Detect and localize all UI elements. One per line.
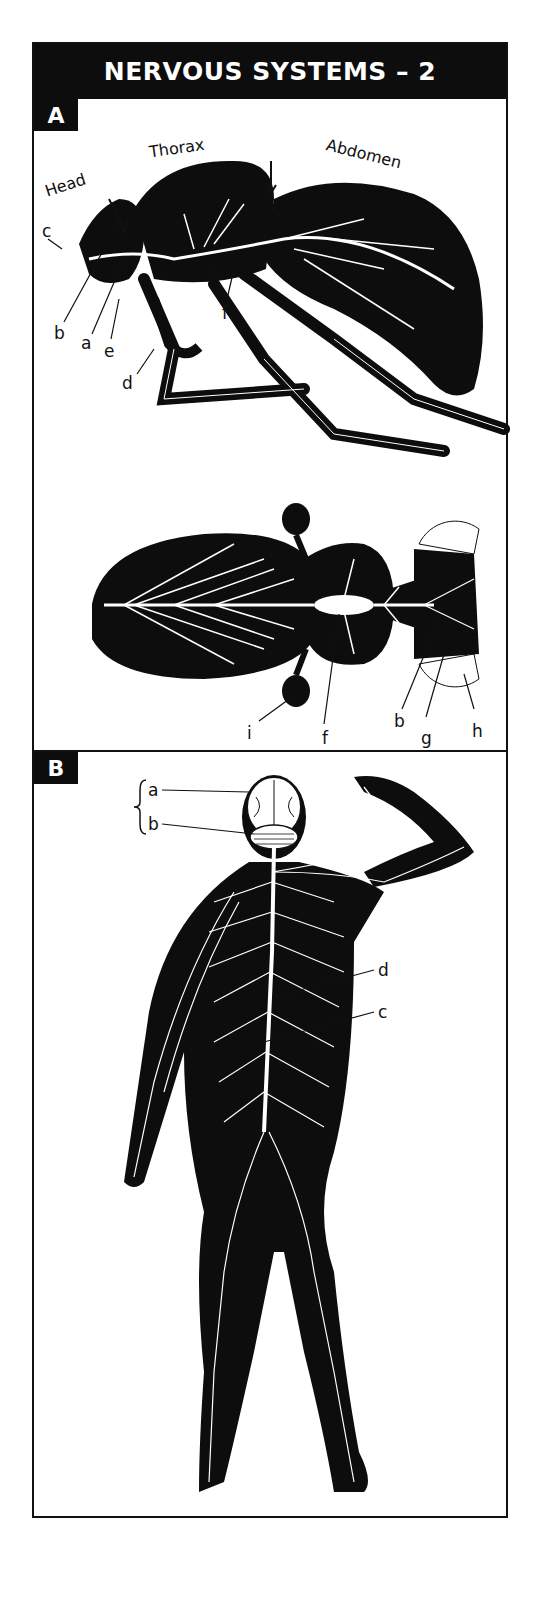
figure-title: NERVOUS SYSTEMS – 2 [104, 57, 436, 86]
label-d: d [122, 373, 133, 393]
insect-diagrams: Head Thorax Abdomen c b a e d f [34, 99, 510, 750]
label-f: f [222, 303, 229, 323]
human-figure: a b d c [124, 775, 474, 1492]
label-b: b [54, 323, 65, 343]
region-head: Head [43, 170, 89, 201]
label-d-nerves: d [378, 960, 389, 980]
label-a-brain: a [148, 780, 158, 800]
insect-side-view: Head Thorax Abdomen c b a e d f [42, 135, 504, 451]
label-g: g [421, 728, 432, 748]
panel-a-insect: A [34, 99, 506, 750]
label-a: a [81, 333, 91, 353]
label-i: i [247, 723, 252, 743]
brain-brace [134, 780, 146, 834]
title-bar: NERVOUS SYSTEMS – 2 [34, 44, 506, 99]
human-diagram: a b d c [34, 752, 510, 1518]
label-b-top: b [394, 711, 405, 731]
panel-b-human: B [34, 750, 506, 1518]
label-h: h [472, 721, 483, 741]
label-c-spinal-cord: c [378, 1002, 387, 1022]
label-e: e [104, 341, 114, 361]
figure-frame: NERVOUS SYSTEMS – 2 A [32, 42, 508, 1518]
region-thorax: Thorax [147, 135, 206, 162]
insect-top-view: i f b g h [92, 503, 483, 748]
label-c: c [42, 221, 51, 241]
label-b-cerebellum: b [148, 814, 159, 834]
region-abdomen: Abdomen [324, 135, 403, 172]
label-f-top: f [322, 728, 329, 748]
